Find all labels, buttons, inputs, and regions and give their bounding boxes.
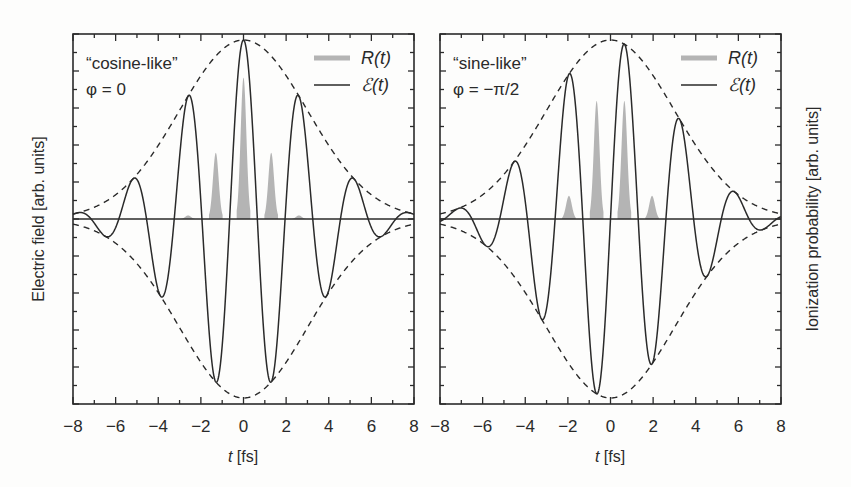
r-burst — [645, 196, 659, 219]
x-tick-label: −2 — [558, 417, 577, 436]
envelope-lower — [440, 224, 781, 398]
x-tick-label: 2 — [648, 417, 657, 436]
legend-label-e: ℰ(t) — [361, 75, 389, 95]
annotation-phase: φ = −π/2 — [453, 80, 519, 99]
legend: R(t) ℰ(t) — [314, 48, 391, 95]
x-tick-label: 4 — [324, 417, 333, 436]
x-tick-label: −8 — [63, 417, 82, 436]
x-tick-label: 8 — [409, 417, 418, 436]
x-tick-label: −2 — [191, 417, 210, 436]
x-tick-label: 0 — [606, 417, 615, 436]
x-tick-label: −4 — [516, 417, 535, 436]
x-tick-label: 6 — [734, 417, 743, 436]
r-burst — [618, 101, 632, 219]
legend-label-r: R(t) — [361, 48, 391, 68]
y-axis-title: Ionization probability [arb. units] — [804, 106, 821, 331]
envelope-lower — [73, 224, 414, 398]
legend: R(t) ℰ(t) — [681, 48, 758, 95]
x-tick-label: −6 — [473, 417, 492, 436]
r-burst — [209, 153, 223, 219]
x-axis-title: t [fs] — [228, 448, 258, 465]
left-panel: “cosine-like” φ = 0 R(t) ℰ(t) Electric f… — [30, 34, 419, 465]
r-burst — [562, 196, 576, 219]
annotation-label: “cosine-like” — [86, 54, 178, 73]
legend-label-r: R(t) — [728, 48, 758, 68]
figure: “cosine-like” φ = 0 R(t) ℰ(t) Electric f… — [0, 0, 851, 487]
x-tick-label: −8 — [430, 417, 449, 436]
r-burst — [264, 153, 278, 219]
x-tick-label: 4 — [691, 417, 700, 436]
x-tick-label: −4 — [149, 417, 168, 436]
x-axis-title: t [fs] — [595, 448, 625, 465]
r-burst — [237, 78, 251, 219]
y-axis-title: Electric field [arb. units] — [30, 136, 47, 301]
x-tick-label: 8 — [776, 417, 785, 436]
right-panel: “sine-like” φ = −π/2 R(t) ℰ(t) Ionizatio… — [430, 34, 821, 465]
x-tick-label: −6 — [106, 417, 125, 436]
legend-label-e: ℰ(t) — [728, 75, 756, 95]
annotation-label: “sine-like” — [453, 54, 527, 73]
r-burst — [590, 101, 604, 219]
annotation-phase: φ = 0 — [86, 80, 126, 99]
x-tick-label: 6 — [367, 417, 376, 436]
x-tick-label: 2 — [281, 417, 290, 436]
x-tick-label: 0 — [239, 417, 248, 436]
